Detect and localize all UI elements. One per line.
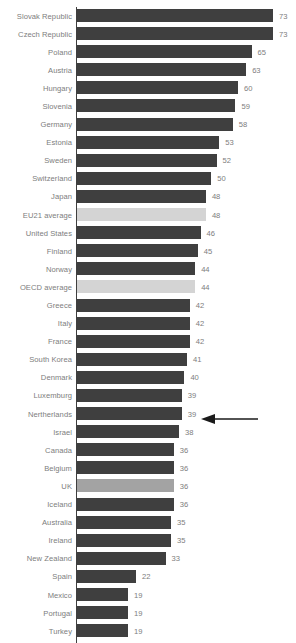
value-label: 45 bbox=[204, 246, 212, 255]
value-label: 50 bbox=[217, 174, 225, 183]
bar bbox=[77, 81, 238, 94]
bar-track: 41 bbox=[77, 353, 296, 366]
category-label: Hungary bbox=[0, 83, 72, 92]
category-label: Ireland bbox=[0, 536, 72, 545]
bar-row: Greece42 bbox=[0, 299, 296, 312]
bar-row: Mexico19 bbox=[0, 588, 296, 601]
value-label: 63 bbox=[252, 65, 260, 74]
bar-track: 36 bbox=[77, 479, 296, 492]
category-label: New Zealand bbox=[0, 554, 72, 563]
bar bbox=[77, 118, 233, 131]
category-label: Greece bbox=[0, 301, 72, 310]
bar bbox=[77, 570, 136, 583]
category-label: Germany bbox=[0, 120, 72, 129]
bar-row: Slovak Republic73 bbox=[0, 9, 296, 22]
bar bbox=[77, 588, 128, 601]
bar-track: 50 bbox=[77, 172, 296, 185]
value-label: 39 bbox=[188, 391, 196, 400]
category-label: South Korea bbox=[0, 355, 72, 364]
category-label: OECD average bbox=[0, 282, 72, 291]
bar-row: Belgium36 bbox=[0, 461, 296, 474]
category-label: Spain bbox=[0, 572, 72, 581]
category-label: Israel bbox=[0, 427, 72, 436]
bar bbox=[77, 461, 174, 474]
category-label: Austria bbox=[0, 65, 72, 74]
value-label: 73 bbox=[279, 11, 287, 20]
bar bbox=[77, 45, 252, 58]
category-label: Nertherlands bbox=[0, 409, 72, 418]
bar-track: 42 bbox=[77, 299, 296, 312]
bar bbox=[77, 479, 174, 492]
bar-row: Italy42 bbox=[0, 317, 296, 330]
bar bbox=[77, 63, 246, 76]
bar bbox=[77, 27, 273, 40]
category-label: Norway bbox=[0, 264, 72, 273]
bar bbox=[77, 317, 190, 330]
bar-track: 42 bbox=[77, 335, 296, 348]
value-label: 19 bbox=[134, 608, 142, 617]
value-label: 44 bbox=[201, 282, 209, 291]
bar bbox=[77, 516, 171, 529]
value-label: 42 bbox=[196, 301, 204, 310]
bar-track: 46 bbox=[77, 226, 296, 239]
value-label: 73 bbox=[279, 29, 287, 38]
value-label: 19 bbox=[134, 590, 142, 599]
bar-row: Nertherlands39 bbox=[0, 407, 296, 420]
value-label: 52 bbox=[223, 156, 231, 165]
bar-row: Poland65 bbox=[0, 45, 296, 58]
value-label: 35 bbox=[177, 518, 185, 527]
bar-track: 65 bbox=[77, 45, 296, 58]
bar bbox=[77, 299, 190, 312]
bar-row: EU21 average48 bbox=[0, 208, 296, 221]
value-label: 58 bbox=[239, 120, 247, 129]
bar bbox=[77, 353, 187, 366]
category-label: Estonia bbox=[0, 138, 72, 147]
bar bbox=[77, 534, 171, 547]
bar bbox=[77, 280, 195, 293]
bar bbox=[77, 443, 174, 456]
category-label: France bbox=[0, 337, 72, 346]
category-label: Mexico bbox=[0, 590, 72, 599]
value-label: 36 bbox=[180, 445, 188, 454]
bar-row: Canada36 bbox=[0, 443, 296, 456]
bar-row: Norway44 bbox=[0, 262, 296, 275]
value-label: 46 bbox=[207, 228, 215, 237]
value-label: 60 bbox=[244, 83, 252, 92]
bar-row: New Zealand33 bbox=[0, 552, 296, 565]
category-label: Italy bbox=[0, 319, 72, 328]
bar-row: Austria63 bbox=[0, 63, 296, 76]
bar-track: 48 bbox=[77, 208, 296, 221]
bar bbox=[77, 154, 217, 167]
bar-track: 45 bbox=[77, 244, 296, 257]
bar bbox=[77, 624, 128, 637]
bar-track: 36 bbox=[77, 443, 296, 456]
category-label: Canada bbox=[0, 445, 72, 454]
bar-row: OECD average44 bbox=[0, 280, 296, 293]
bar-row: Estonia53 bbox=[0, 136, 296, 149]
value-label: 42 bbox=[196, 337, 204, 346]
bar-track: 36 bbox=[77, 461, 296, 474]
value-label: 38 bbox=[185, 427, 193, 436]
bar-row: Australia35 bbox=[0, 516, 296, 529]
bar-track: 53 bbox=[77, 136, 296, 149]
value-label: 22 bbox=[142, 572, 150, 581]
bar-track: 36 bbox=[77, 498, 296, 511]
bar-row: Hungary60 bbox=[0, 81, 296, 94]
bar-track: 63 bbox=[77, 63, 296, 76]
bar-row: Spain22 bbox=[0, 570, 296, 583]
bar-track: 38 bbox=[77, 425, 296, 438]
bar bbox=[77, 226, 201, 239]
bar-row: Czech Republic73 bbox=[0, 27, 296, 40]
category-label: Australia bbox=[0, 518, 72, 527]
bar bbox=[77, 262, 195, 275]
category-label: Luxemburg bbox=[0, 391, 72, 400]
bar-track: 48 bbox=[77, 190, 296, 203]
category-label: Sweden bbox=[0, 156, 72, 165]
category-label: Poland bbox=[0, 47, 72, 56]
bar-track: 52 bbox=[77, 154, 296, 167]
value-label: 65 bbox=[258, 47, 266, 56]
bar-track: 73 bbox=[77, 9, 296, 22]
category-label: Switzerland bbox=[0, 174, 72, 183]
bar-track: 59 bbox=[77, 99, 296, 112]
